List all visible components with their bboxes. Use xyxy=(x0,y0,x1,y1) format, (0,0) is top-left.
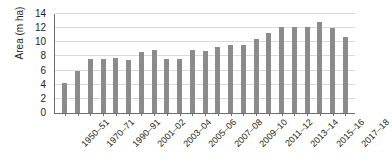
bar xyxy=(126,60,131,113)
bar xyxy=(190,50,195,113)
bar xyxy=(266,33,271,113)
bar xyxy=(101,59,106,113)
bar xyxy=(241,45,246,113)
y-tick-label: 14 xyxy=(0,9,46,19)
bar xyxy=(113,58,118,113)
bar xyxy=(139,52,144,113)
y-tick-label: 4 xyxy=(0,80,46,90)
bar-series xyxy=(54,14,355,113)
bar xyxy=(75,71,80,113)
bar xyxy=(279,27,284,113)
bar xyxy=(152,50,157,113)
y-tick-label: 6 xyxy=(0,66,46,76)
x-axis-tick-labels: 1950–511970–711990–912001–022003–042005–… xyxy=(0,113,360,163)
y-tick-label: 2 xyxy=(0,94,46,104)
bar xyxy=(177,59,182,113)
bar xyxy=(88,59,93,113)
bar xyxy=(317,22,322,113)
y-tick-label: 10 xyxy=(0,37,46,47)
bar xyxy=(164,59,169,113)
bar xyxy=(305,27,310,113)
bar xyxy=(228,45,233,113)
y-tick-label: 8 xyxy=(0,51,46,61)
bar xyxy=(254,39,259,113)
bar xyxy=(215,47,220,113)
bar xyxy=(203,51,208,113)
bar xyxy=(292,27,297,113)
bar xyxy=(62,83,67,113)
bar xyxy=(330,28,335,113)
bar xyxy=(343,37,348,113)
y-tick-label: 12 xyxy=(0,23,46,33)
